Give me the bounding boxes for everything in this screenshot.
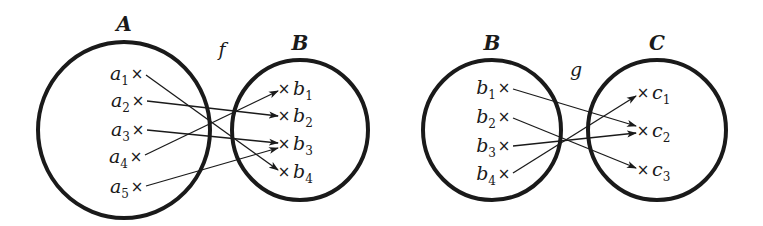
set-B: B×b1×b2×b3×b4 — [423, 31, 561, 200]
arrow-a5-to-b3 — [146, 148, 278, 186]
set-label: B — [291, 31, 309, 55]
element-label: b2 — [476, 105, 496, 131]
cross-mark-icon: × — [278, 135, 291, 153]
cross-mark-icon: × — [278, 163, 291, 181]
element-b4: ×b4 — [476, 162, 510, 188]
set-label: A — [114, 12, 132, 36]
element-label: b4 — [476, 162, 496, 188]
set-B: B×b1×b2×b3×b4 — [232, 31, 368, 200]
element-label: b1 — [293, 77, 313, 103]
element-c2: ×c2 — [637, 119, 671, 145]
mapping-label: g — [570, 58, 582, 80]
element-label: c2 — [652, 119, 670, 145]
element-b2: ×b2 — [476, 105, 510, 131]
cross-mark-icon: × — [637, 84, 650, 102]
mapping-diagram-f: A×a1×a2×a3×a4×a5B×b1×b2×b3×b4f — [38, 12, 368, 218]
element-label: c1 — [652, 81, 670, 107]
cross-mark-icon: × — [131, 178, 144, 196]
arrow-a4-to-b1 — [145, 91, 278, 155]
element-a2: ×a2 — [111, 89, 144, 115]
cross-mark-icon: × — [498, 108, 511, 126]
element-c1: ×c1 — [637, 81, 671, 107]
element-label: b4 — [293, 160, 313, 186]
element-b3: ×b3 — [476, 134, 510, 160]
cross-mark-icon: × — [278, 107, 291, 125]
cross-mark-icon: × — [498, 79, 511, 97]
element-b2: ×b2 — [278, 104, 313, 130]
arrow-a2-to-b2 — [147, 101, 278, 116]
set-label: C — [649, 31, 665, 55]
element-label: a1 — [110, 62, 129, 88]
element-b3: ×b3 — [278, 132, 313, 158]
cross-mark-icon: × — [637, 122, 650, 140]
cross-mark-icon: × — [132, 92, 145, 110]
element-label: b1 — [476, 76, 496, 102]
mapping-label: f — [216, 38, 228, 60]
element-label: b3 — [293, 132, 313, 158]
mapping-diagram-g: B×b1×b2×b3×b4C×c1×c2×c3g — [423, 31, 726, 200]
cross-mark-icon: × — [498, 137, 511, 155]
element-a4: ×a4 — [109, 145, 142, 171]
cross-mark-icon: × — [131, 65, 144, 83]
arrow-b2-to-c3 — [513, 118, 636, 168]
set-A: A×a1×a2×a3×a4×a5 — [38, 12, 210, 218]
cross-mark-icon: × — [637, 161, 650, 179]
cross-mark-icon: × — [498, 165, 511, 183]
cross-mark-icon: × — [278, 80, 291, 98]
set-label: B — [483, 31, 501, 55]
element-c3: ×c3 — [637, 158, 671, 184]
element-b1: ×b1 — [278, 77, 313, 103]
element-b4: ×b4 — [278, 160, 313, 186]
element-label: a4 — [109, 145, 128, 171]
element-label: a5 — [110, 175, 129, 201]
cross-mark-icon: × — [130, 148, 143, 166]
element-b1: ×b1 — [476, 76, 510, 102]
element-a1: ×a1 — [110, 62, 143, 88]
function-mapping-diagram: A×a1×a2×a3×a4×a5B×b1×b2×b3×b4fB×b1×b2×b3… — [0, 0, 763, 226]
element-label: a2 — [111, 89, 130, 115]
arrow-a3-to-b3 — [147, 130, 278, 143]
element-label: b2 — [293, 104, 313, 130]
element-a3: ×a3 — [111, 118, 144, 144]
element-label: c3 — [652, 158, 670, 184]
element-label: b3 — [476, 134, 496, 160]
set-C: C×c1×c2×c3 — [588, 31, 726, 200]
element-a5: ×a5 — [110, 175, 143, 201]
element-label: a3 — [111, 118, 130, 144]
cross-mark-icon: × — [132, 121, 145, 139]
